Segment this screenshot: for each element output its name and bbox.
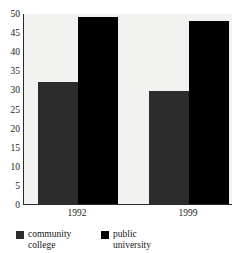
bar-public-university-1992 (78, 17, 118, 204)
bar-community-college-1992 (38, 82, 78, 204)
y-tick-label: 35 (3, 66, 20, 76)
legend-entry-community-college: community college (16, 229, 92, 251)
bar-public-university-1999 (189, 21, 229, 204)
legend-entry-public-university: public university (101, 229, 177, 251)
y-tick-label: 30 (3, 85, 20, 95)
y-tick-label: 5 (3, 181, 20, 191)
y-tick-label: 25 (3, 105, 20, 115)
bar-community-college-1999 (149, 91, 189, 204)
legend-label: public university (113, 229, 177, 251)
y-axis-tick-labels: 05101520253035404550 (0, 14, 20, 205)
bar-chart-figure: 05101520253035404550 19921999 community … (0, 0, 243, 253)
clipped-caption (18, 0, 228, 3)
y-tick-label: 50 (3, 9, 20, 19)
y-tick-label: 15 (3, 143, 20, 153)
legend-swatch-icon (101, 231, 109, 239)
y-tick-label: 20 (3, 124, 20, 134)
x-tick-label-1992: 1992 (47, 208, 107, 219)
legend-swatch-icon (16, 231, 24, 239)
y-tick-label: 0 (3, 200, 20, 210)
plot-area (23, 14, 232, 205)
y-tick-label: 10 (3, 162, 20, 172)
bars-layer (24, 14, 232, 204)
x-tick-label-1999: 1999 (158, 208, 218, 219)
y-tick-label: 40 (3, 47, 20, 57)
legend-label: community college (28, 229, 92, 251)
chart-legend: community collegepublic university (16, 229, 177, 251)
y-tick-label: 45 (3, 28, 20, 38)
